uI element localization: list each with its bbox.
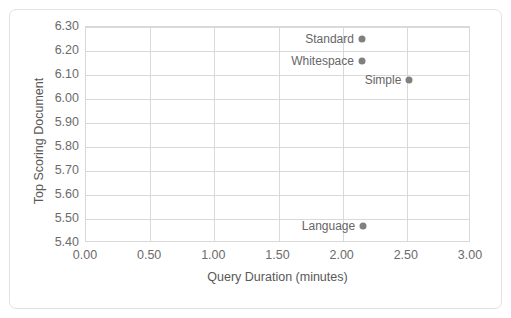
gridline-vertical [214, 27, 215, 241]
gridline-horizontal [86, 219, 469, 220]
x-axis-tick-label: 0.00 [73, 248, 97, 262]
x-axis-tick-label: 1.50 [265, 248, 289, 262]
y-axis-tick-label: 6.00 [55, 91, 79, 105]
x-axis-title: Query Duration (minutes) [85, 270, 470, 284]
data-point-label: Simple [365, 73, 402, 87]
y-axis-title: Top Scoring Document [32, 41, 46, 241]
y-axis-tick-label: 5.60 [55, 187, 79, 201]
gridline-vertical [279, 27, 280, 241]
y-axis-tick-label: 6.30 [55, 19, 79, 33]
data-point-label: Whitespace [291, 54, 354, 68]
data-point [406, 76, 413, 83]
gridline-horizontal [86, 147, 469, 148]
gridline-horizontal [86, 51, 469, 52]
x-axis-tick-label: 3.00 [458, 248, 482, 262]
data-point [358, 36, 365, 43]
y-axis-tick-label: 5.70 [55, 163, 79, 177]
gridline-horizontal [86, 99, 469, 100]
gridline-horizontal [86, 195, 469, 196]
data-point-label: Language [302, 219, 355, 233]
plot-area: StandardWhitespaceSimpleLanguage [85, 26, 470, 242]
gridline-horizontal [86, 171, 469, 172]
x-axis-tick-label: 2.00 [329, 248, 353, 262]
y-axis-tick-label: 5.50 [55, 211, 79, 225]
y-axis-tick-label: 6.10 [55, 67, 79, 81]
data-point [358, 57, 365, 64]
y-axis-tick-label: 5.80 [55, 139, 79, 153]
y-axis-tick-label: 5.40 [55, 235, 79, 249]
gridline-horizontal [86, 27, 469, 28]
x-axis-tick-label: 1.00 [201, 248, 225, 262]
scatter-chart: 5.405.505.605.705.805.906.006.106.206.30… [0, 0, 511, 318]
x-axis-tick-label: 2.50 [394, 248, 418, 262]
gridline-vertical [407, 27, 408, 241]
data-point-label: Standard [305, 32, 354, 46]
gridline-horizontal [86, 75, 469, 76]
gridline-vertical [150, 27, 151, 241]
data-point [360, 223, 367, 230]
gridline-horizontal [86, 123, 469, 124]
y-axis-tick-label: 5.90 [55, 115, 79, 129]
x-axis-tick-label: 0.50 [137, 248, 161, 262]
y-axis-tick-label: 6.20 [55, 43, 79, 57]
